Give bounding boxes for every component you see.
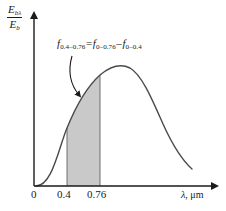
- x-tick-label-0: 0: [31, 189, 37, 200]
- equation-lhs: f0.4–0.76: [57, 37, 85, 49]
- spectral-emissive-power-curve: [36, 66, 192, 186]
- x-tick-label-0.76: 0.76: [87, 189, 106, 200]
- x-tick-label-0.4: 0.4: [57, 189, 71, 200]
- plot-canvas: [0, 0, 226, 211]
- band-fraction-equation: f0.4–0.76=f0–0.76–f0–0.4: [57, 38, 142, 49]
- blackbody-fraction-figure: Ebλ Eb f0.4–0.76=f0–0.76–f0–0.4 0 0.4 0.…: [0, 0, 226, 211]
- shaded-band-region: [36, 75, 100, 186]
- y-axis-numerator: Ebλ: [7, 4, 22, 16]
- equation-term-1: f0–0.76: [93, 37, 116, 49]
- equals-sign: =: [85, 37, 92, 49]
- equation-term-2: f0–0.4: [122, 37, 141, 49]
- annotation-leader-arrow: [70, 56, 79, 95]
- y-axis-label: Ebλ Eb: [7, 4, 22, 30]
- x-axis-unit: , μm: [185, 189, 203, 200]
- x-axis-label: λ, μm: [181, 190, 203, 200]
- y-axis-denominator: Eb: [7, 19, 22, 30]
